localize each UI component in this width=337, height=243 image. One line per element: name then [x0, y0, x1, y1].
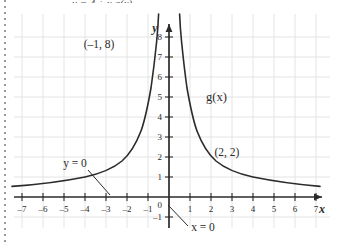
x-tick-label: 7 [314, 204, 319, 214]
y-tick-label: 4 [158, 112, 163, 122]
x-axis [14, 194, 322, 201]
vertical-asymptote-leader [168, 205, 188, 226]
function-label: g(x) [206, 90, 227, 104]
grid-lines [14, 14, 330, 228]
y-tick-label: 3 [158, 132, 163, 142]
point-label-right: (2, 2) [215, 146, 240, 159]
cropped-title-text: y = 4 ÷ x g(x) [72, 0, 202, 3]
y-tick-label: 8 [158, 32, 163, 42]
y-tick-label: –1 [152, 212, 162, 222]
graph-figure: y = 4 ÷ x g(x) [0, 0, 337, 243]
y-tick-label: 7 [158, 52, 163, 62]
x-tick-label: –5 [59, 204, 70, 214]
curve-right-branch [180, 14, 320, 186]
x-tick-label: –7 [17, 204, 28, 214]
coordinate-plane: –7 –6 –5 –4 –3 –2 –1 1 2 3 4 5 6 7 8 7 6… [0, 0, 337, 243]
x-tick-label: 4 [251, 204, 256, 214]
x-tick-label: 1 [188, 204, 193, 214]
x-tick-label: 5 [272, 204, 277, 214]
x-tick-label: –4 [80, 204, 91, 214]
x-tick-label: –1 [143, 204, 153, 214]
y-tick-label: 5 [158, 92, 163, 102]
x-tick-label: –2 [122, 204, 132, 214]
origin-label: 0 [158, 200, 163, 210]
vertical-asymptote-label: x = 0 [191, 221, 215, 233]
y-tick-label: 1 [158, 172, 163, 182]
x-tick-label: 3 [230, 204, 235, 214]
x-tick-labels: –7 –6 –5 –4 –3 –2 –1 1 2 3 4 5 6 7 [17, 204, 319, 214]
x-axis-label: x [318, 202, 325, 216]
y-tick-label: 6 [158, 72, 163, 82]
x-tick-label: 6 [293, 204, 298, 214]
point-label-left: (–1, 8) [84, 38, 115, 51]
y-tick-label: 2 [158, 152, 163, 162]
x-tick-label: 2 [209, 204, 214, 214]
x-tick-label: –3 [101, 204, 112, 214]
page-perforation-line [4, 0, 6, 243]
y-tick-labels: 8 7 6 5 4 3 2 1 –1 [152, 32, 163, 222]
x-tick-label: –6 [38, 204, 49, 214]
horizontal-asymptote-label: y = 0 [63, 157, 87, 170]
